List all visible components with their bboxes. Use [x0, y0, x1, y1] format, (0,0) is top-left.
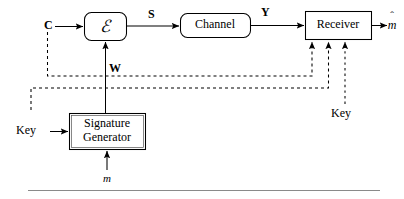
channel-label: Channel — [180, 18, 250, 31]
label-message: m — [103, 173, 111, 184]
figure-canvas: ℰ Channel Receiver Signature Generator C… — [0, 0, 404, 199]
label-message-estimate: ˆ m — [385, 13, 399, 31]
label-key-left: Key — [16, 124, 36, 136]
label-cover-signal: C — [44, 19, 53, 31]
signature-generator-label-line1: Signature — [69, 117, 145, 130]
encoder-label: ℰ — [84, 18, 126, 36]
message-estimate-base: m — [385, 19, 399, 31]
label-watermark-signal: W — [109, 62, 121, 74]
label-received-signal: Y — [261, 6, 270, 18]
label-stego-signal: S — [148, 8, 155, 20]
receiver-label: Receiver — [305, 18, 371, 31]
signature-generator-label-line2: Generator — [69, 131, 145, 144]
label-key-right: Key — [331, 107, 351, 119]
